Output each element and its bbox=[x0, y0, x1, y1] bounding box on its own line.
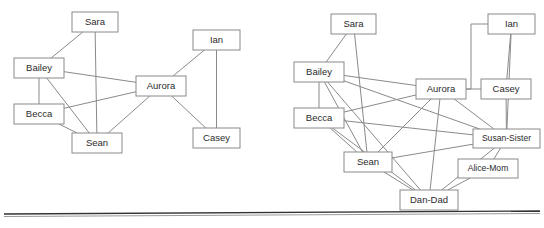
node-label-bailey: Bailey bbox=[306, 66, 332, 77]
node-alice-mom[interactable]: Alice-Mom bbox=[458, 159, 518, 178]
node-label-ian: Ian bbox=[505, 18, 518, 29]
node-label-sara: Sara bbox=[85, 16, 106, 27]
node-label-casey: Casey bbox=[203, 132, 230, 143]
edge-sean-susan-sister bbox=[392, 144, 473, 158]
edge-aurora-ian bbox=[173, 50, 204, 76]
node-label-sean: Sean bbox=[357, 156, 379, 167]
edge-sean-aurora bbox=[108, 96, 150, 133]
node-becca[interactable]: Becca bbox=[14, 104, 64, 124]
graph-svg: SaraBaileyBeccaSeanAuroraIanCaseySaraBai… bbox=[0, 0, 544, 228]
divider-layer bbox=[4, 211, 540, 217]
node-label-ian: Ian bbox=[210, 34, 223, 45]
edge-sara-sean bbox=[355, 34, 367, 152]
node-sara[interactable]: Sara bbox=[331, 14, 376, 34]
node-bailey[interactable]: Bailey bbox=[14, 58, 64, 78]
node-label-casey: Casey bbox=[493, 83, 520, 94]
edge-bailey-dan-dad bbox=[328, 82, 421, 190]
edge-sara-bailey bbox=[51, 32, 83, 58]
node-label-dan-dad: Dan-Dad bbox=[410, 194, 448, 205]
edge-sara-bailey bbox=[326, 34, 346, 62]
node-label-alice-mom: Alice-Mom bbox=[468, 163, 509, 173]
edge-becca-aurora bbox=[64, 92, 136, 109]
node-label-aurora: Aurora bbox=[147, 80, 176, 91]
node-sean[interactable]: Sean bbox=[344, 152, 392, 172]
node-casey[interactable]: Casey bbox=[193, 128, 240, 148]
node-aurora[interactable]: Aurora bbox=[416, 79, 466, 99]
node-label-becca: Becca bbox=[26, 108, 53, 119]
node-label-bailey: Bailey bbox=[26, 62, 52, 73]
node-label-sean: Sean bbox=[86, 137, 108, 148]
edge-becca-sean bbox=[330, 128, 357, 152]
edge-sean-dan-dad bbox=[384, 172, 413, 190]
node-label-becca: Becca bbox=[306, 112, 333, 123]
node-susan-sister[interactable]: Susan-Sister bbox=[473, 129, 540, 148]
edge-sara-sean bbox=[95, 32, 97, 133]
edge-becca-susan-sister bbox=[344, 121, 473, 135]
edge-alice-mom-dan-dad bbox=[448, 178, 470, 190]
node-bailey[interactable]: Bailey bbox=[294, 62, 344, 82]
node-label-aurora: Aurora bbox=[427, 83, 456, 94]
edges-layer bbox=[39, 24, 511, 190]
node-label-sara: Sara bbox=[343, 18, 364, 29]
node-ian[interactable]: Ian bbox=[193, 30, 240, 50]
diagram-canvas: SaraBaileyBeccaSeanAuroraIanCaseySaraBai… bbox=[0, 0, 544, 228]
node-dan-dad[interactable]: Dan-Dad bbox=[400, 190, 458, 210]
node-ian[interactable]: Ian bbox=[488, 14, 535, 34]
edge-bailey-aurora bbox=[344, 75, 416, 85]
edge-bailey-aurora bbox=[64, 72, 136, 83]
edge-becca-aurora bbox=[344, 95, 416, 112]
node-aurora[interactable]: Aurora bbox=[136, 76, 186, 96]
edge-becca-sean bbox=[59, 124, 77, 133]
edge-aurora-casey bbox=[172, 96, 206, 128]
nodes-layer: SaraBaileyBeccaSeanAuroraIanCaseySaraBai… bbox=[14, 12, 540, 210]
node-sara[interactable]: Sara bbox=[72, 12, 118, 32]
node-label-susan-sister: Susan-Sister bbox=[482, 133, 531, 143]
node-becca[interactable]: Becca bbox=[294, 108, 344, 128]
edge-aurora-susan-sister bbox=[454, 99, 494, 129]
node-sean[interactable]: Sean bbox=[72, 133, 122, 153]
node-casey[interactable]: Casey bbox=[481, 79, 531, 99]
edge-susan-sister-alice-mom bbox=[494, 148, 501, 159]
